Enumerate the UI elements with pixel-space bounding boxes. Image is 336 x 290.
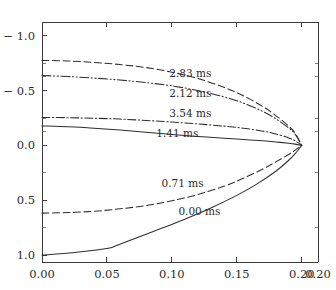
x-tick-label: 0.00: [29, 267, 55, 281]
x-tick-label: 0.20: [305, 267, 331, 281]
data-curve-0-00-ms: [42, 145, 302, 255]
curve-label-1-41-ms: 1.41 ms: [156, 127, 198, 139]
y-tick-label: 0.5: [17, 193, 35, 207]
y-tick-label: − 1.0: [3, 29, 35, 43]
y-tick-label: 1.0: [17, 248, 35, 262]
y-tick-label: − 0.5: [3, 84, 35, 98]
y-axis-tick-marks: [42, 36, 47, 255]
curve-inline-labels: 2.83 ms2.12 ms3.54 ms1.41 ms0.71 ms0.00 …: [156, 67, 220, 217]
x-tick-label: 0.15: [224, 267, 250, 281]
curve-label-3-54-ms: 3.54 ms: [169, 107, 211, 119]
x-tick-label: 0.05: [94, 267, 120, 281]
x-tick-label: 0.10: [159, 267, 185, 281]
curve-label-0-00-ms: 0.00 ms: [178, 205, 220, 217]
curve-label-2-83-ms: 2.83 ms: [169, 67, 211, 79]
curve-label-2-12-ms: 2.12 ms: [169, 87, 211, 99]
curve-label-0-71-ms: 0.71 ms: [161, 177, 203, 189]
line-chart-plot: − 1.0− 0.50.00.51.0 0.000.050.100.150.20…: [0, 0, 336, 290]
y-tick-label: 0.0: [17, 138, 35, 152]
x-axis-tick-labels: 0.000.050.100.150.200.20: [29, 267, 331, 281]
y-axis-tick-labels: − 1.0− 0.50.00.51.0: [3, 29, 35, 262]
chart-figure: − 1.0− 0.50.00.51.0 0.000.050.100.150.20…: [0, 0, 336, 290]
